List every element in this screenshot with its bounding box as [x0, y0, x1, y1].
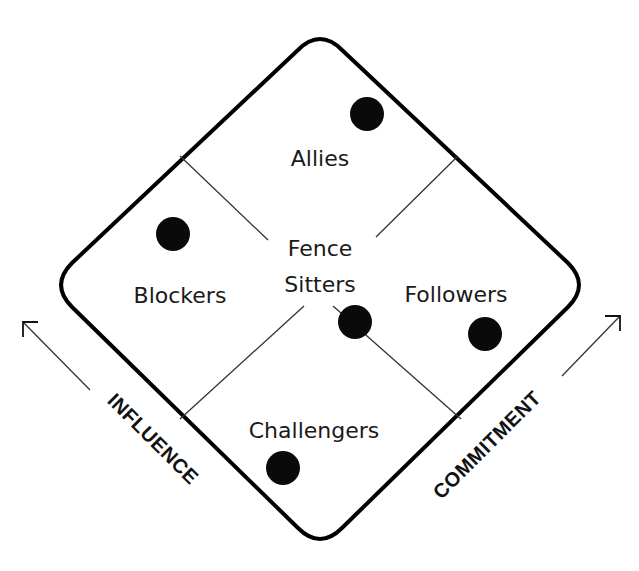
divider-lower-left	[180, 306, 304, 419]
influence-arrow-line	[23, 322, 90, 390]
commitment-label: COMMITMENT	[429, 387, 546, 504]
label-challengers: Challengers	[249, 418, 380, 443]
label-allies: Allies	[291, 146, 349, 171]
label-fence: Fence	[288, 236, 353, 261]
marker-blockers	[156, 217, 190, 251]
divider-upper-right	[376, 156, 458, 237]
label-followers: Followers	[404, 282, 507, 307]
commitment-arrow-line	[562, 316, 620, 376]
label-sitters: Sitters	[284, 272, 355, 297]
influence-label: INFLUENCE	[103, 389, 203, 489]
divider-upper-left	[180, 156, 268, 240]
stakeholder-diamond-diagram: Allies Blockers Fence Sitters Followers …	[0, 0, 639, 571]
label-blockers: Blockers	[134, 283, 227, 308]
marker-fence-sitters	[338, 305, 372, 339]
marker-followers	[468, 317, 502, 351]
commitment-axis: COMMITMENT	[429, 316, 620, 503]
marker-allies	[350, 97, 384, 131]
marker-challengers	[266, 451, 300, 485]
